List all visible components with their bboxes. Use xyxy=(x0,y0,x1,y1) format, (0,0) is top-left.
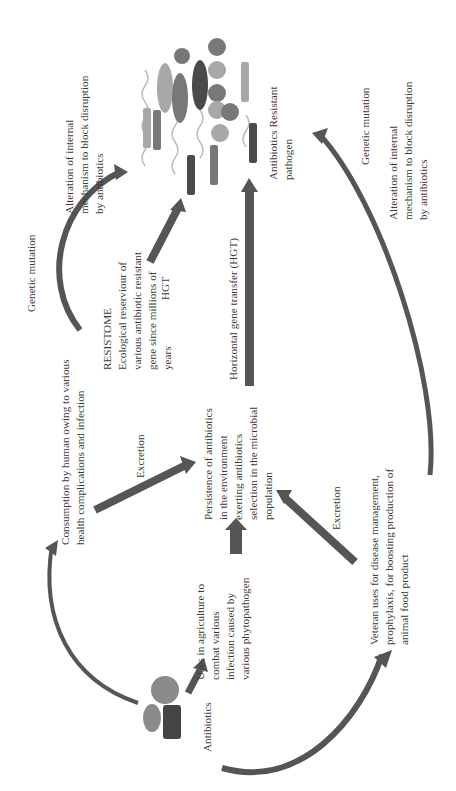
label-hgt-long: Horizontal gene transfer (HGT) xyxy=(226,238,241,380)
label-excretion-human: Excretion xyxy=(133,435,148,479)
node-resistome: RESISTOME Ecological reserviour of vario… xyxy=(100,252,175,370)
arrow-agriculture-to-persistence xyxy=(230,528,242,554)
label-excretion-veteran: Excretion xyxy=(329,487,344,531)
curve-arrow-antibiotics-to-human xyxy=(49,545,138,703)
node-antibiotics: Antibiotics xyxy=(200,702,215,752)
arrow-excretion-veteran xyxy=(285,498,355,562)
arrow-hgt-long xyxy=(245,190,254,386)
label-alteration-left: Alteration of internal mechanism to bloc… xyxy=(62,76,107,214)
node-veteran: Veteran uses for disease management, pro… xyxy=(367,469,412,645)
pills-icon xyxy=(143,676,181,739)
node-persistence: Persistence of antibiotics in the enviro… xyxy=(201,407,276,520)
label-genetic-mutation-left: Genetic mutation xyxy=(24,235,39,312)
node-agriculture: Uses in agriculture to combat various in… xyxy=(193,578,253,680)
label-hgt-short: HGT xyxy=(158,277,173,300)
label-alteration-right: Alteration of internal mechanism to bloc… xyxy=(386,82,431,220)
bacteria-cluster-icon xyxy=(142,38,257,195)
node-pathogen: Antibiotics Resistant pathogen xyxy=(266,86,296,180)
label-genetic-mutation-right: Genetic mutation xyxy=(358,88,373,165)
diagram-canvas: Alteration of internal mechanism to bloc… xyxy=(0,0,456,791)
node-human-consumption: Consumption by human owing to various he… xyxy=(58,359,88,545)
